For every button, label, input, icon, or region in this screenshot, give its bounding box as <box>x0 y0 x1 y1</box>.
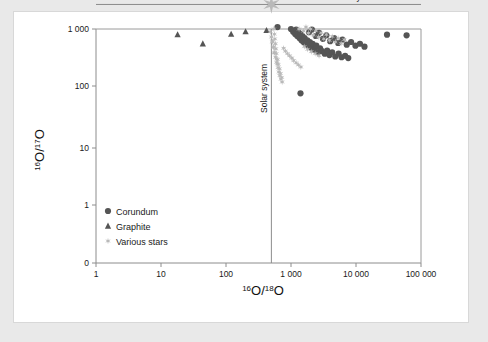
solar-system-horizontal-label: Solar system <box>330 0 379 2</box>
data-point-graphite <box>263 27 269 33</box>
x-tick-label: 10 000 <box>343 269 369 279</box>
series-graphite <box>174 27 269 47</box>
sun-marker <box>263 0 279 14</box>
x-tick-label: 100 000 <box>406 269 437 279</box>
x-tick-label: 100 <box>219 269 233 279</box>
y-axis-title: 16O/17O <box>32 129 47 171</box>
data-point-corundum <box>345 55 351 61</box>
data-point-corundum <box>384 32 390 38</box>
data-point-corundum <box>274 24 280 30</box>
legend-label-corundum: Corundum <box>116 207 158 217</box>
legend-label-various_stars: Various stars <box>116 237 168 247</box>
y-tick-label: 1 000 <box>68 24 90 34</box>
legend-marker-various-stars <box>105 238 111 244</box>
legend-marker-corundum <box>105 208 111 214</box>
data-point-graphite <box>174 31 180 37</box>
legend-label-graphite: Graphite <box>116 222 151 232</box>
legend-marker-graphite <box>105 223 111 229</box>
x-tick-label: 1 000 <box>280 269 302 279</box>
x-axis-title: 16O/18O <box>242 283 284 298</box>
x-tick-label: 10 <box>156 269 166 279</box>
solar-system-vertical-label: Solar system <box>259 64 269 113</box>
scatter-chart: 1 00010010101101001 00010 000100 000Sola… <box>0 0 488 342</box>
y-tick-label: 100 <box>75 81 89 91</box>
data-point-corundum <box>361 44 367 50</box>
y-tick-label: 1 <box>84 200 89 210</box>
y-tick-label: 10 <box>80 143 90 153</box>
y-tick-label: 0 <box>84 258 89 268</box>
data-point-corundum <box>403 32 409 38</box>
data-point-graphite <box>200 40 206 46</box>
data-point-corundum <box>297 90 303 96</box>
legend: CorundumGraphiteVarious stars <box>105 207 168 247</box>
data-point-graphite <box>228 31 234 37</box>
x-tick-label: 1 <box>94 269 99 279</box>
